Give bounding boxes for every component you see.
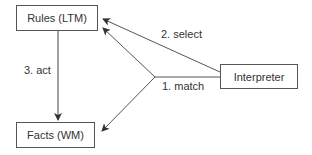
rules-ltm-node: Rules (LTM): [16, 5, 98, 31]
match-edge-label: 1. match: [162, 80, 204, 92]
facts-wm-label: Facts (WM): [27, 129, 84, 141]
interpreter-label: Interpreter: [234, 71, 285, 83]
select-arrow: [103, 19, 220, 72]
rules-ltm-label: Rules (LTM): [27, 12, 87, 24]
match-to-facts-arrow: [102, 77, 155, 131]
select-edge-label: 2. select: [161, 28, 202, 40]
match-to-rules-arrow: [103, 28, 155, 77]
interpreter-node: Interpreter: [220, 64, 298, 89]
act-edge-label: 3. act: [24, 64, 51, 76]
facts-wm-node: Facts (WM): [16, 122, 95, 148]
